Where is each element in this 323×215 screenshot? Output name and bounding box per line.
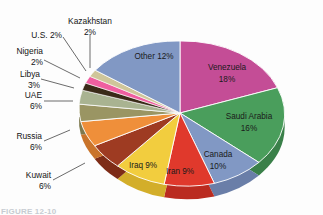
- callout-uae-value: 6%: [30, 101, 43, 111]
- callout-kazakhstan-name: Kazakhstan: [68, 16, 112, 26]
- label-other: Other 12%: [134, 52, 173, 61]
- callout-russia-name: Russia: [16, 131, 42, 141]
- label-venezuela-name: Venezuela: [208, 63, 247, 72]
- label-iraq: Iraq 9%: [129, 161, 157, 170]
- callout-kuwait-name: Kuwait: [26, 170, 52, 180]
- label-iran: Iran 9%: [166, 167, 194, 176]
- callout-libya-value: 3%: [28, 80, 41, 90]
- leader-kuwait: [53, 163, 85, 180]
- leader-nigeria: [44, 60, 80, 78]
- callout-uae-name: UAE: [25, 90, 43, 100]
- callout-kazakhstan-value: 2%: [84, 27, 97, 37]
- callout-nigeria-value: 2%: [31, 57, 44, 67]
- callout-us: U.S. 2%: [31, 30, 62, 40]
- callout-kuwait-value: 6%: [39, 181, 52, 191]
- leader-libya: [41, 79, 74, 88]
- pie-chart-svg: Venezuela 18% Saudi Arabia 16% Canada 10…: [0, 0, 323, 215]
- label-canada-name: Canada: [204, 150, 233, 159]
- figure-caption: FIGURE 12-10: [1, 207, 56, 215]
- leader-russia: [44, 130, 70, 141]
- callout-libya-name: Libya: [20, 69, 40, 79]
- label-canada-value: 10%: [210, 162, 226, 171]
- callout-russia-value: 6%: [30, 142, 43, 152]
- label-saudi-arabia-value: 16%: [241, 124, 257, 133]
- leader-us: [63, 37, 86, 71]
- label-saudi-arabia-name: Saudi Arabia: [226, 112, 273, 121]
- callout-nigeria-name: Nigeria: [16, 46, 43, 56]
- pie-chart-figure: Venezuela 18% Saudi Arabia 16% Canada 10…: [0, 0, 323, 215]
- label-venezuela-value: 18%: [219, 75, 235, 84]
